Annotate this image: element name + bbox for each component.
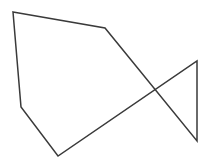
drawing-canvas [0,0,217,158]
polygon-drawing [0,0,217,158]
fish-polygon-outline [13,12,197,156]
